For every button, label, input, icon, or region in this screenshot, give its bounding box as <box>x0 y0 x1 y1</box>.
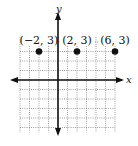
x-axis-label: x <box>126 74 132 85</box>
data-point <box>74 48 81 55</box>
data-point-label: (6, 3) <box>100 34 130 47</box>
data-points: (−2, 3)(2, 3)(6, 3) <box>20 33 132 55</box>
y-axis-label: y <box>55 3 62 14</box>
data-point-label: (2, 3) <box>62 34 92 47</box>
data-point-label: (−2, 3) <box>20 34 59 47</box>
axes: x y <box>10 3 132 136</box>
grid-lines <box>20 37 115 132</box>
data-point <box>112 48 119 55</box>
x-axis-right-arrow-icon <box>116 77 124 83</box>
x-axis-left-arrow-icon <box>10 77 18 83</box>
data-point <box>36 48 43 55</box>
coordinate-plane: x y (−2, 3)(2, 3)(6, 3) <box>0 0 138 146</box>
y-axis-down-arrow-icon <box>55 128 61 136</box>
